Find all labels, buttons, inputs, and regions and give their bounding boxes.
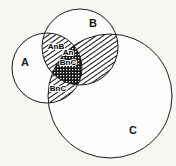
venn-diagram-svg: A B C AnB An BnC BnC <box>0 0 176 166</box>
venn-diagram-container: A B C AnB An BnC BnC <box>0 0 176 166</box>
region-label-a-int-b-int-c-line1: An <box>63 48 74 57</box>
region-label-b-int-c: BnC <box>50 84 67 93</box>
set-label-b: B <box>89 17 97 29</box>
set-label-a: A <box>21 56 29 68</box>
set-label-c: C <box>129 124 137 136</box>
region-label-a-int-b-int-c-line2: BnC <box>60 58 77 67</box>
